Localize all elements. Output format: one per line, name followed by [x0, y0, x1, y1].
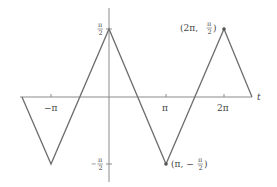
svg-text:2: 2 — [99, 29, 103, 37]
svg-text:π: π — [207, 20, 212, 28]
annotation-pi-neg-pi-over-2: (π, − π 2 ) — [171, 156, 208, 172]
label-t-axis: t — [257, 92, 261, 102]
svg-text:2: 2 — [208, 28, 212, 36]
svg-text:π: π — [98, 21, 103, 29]
label-pi: π — [162, 103, 168, 113]
svg-text:): ) — [204, 159, 208, 169]
svg-text:π: π — [198, 156, 203, 164]
svg-text:): ) — [213, 23, 217, 33]
label-neg-pi: −π — [44, 103, 58, 113]
svg-text:(π, −: (π, − — [171, 159, 194, 169]
label-pi-over-2: π 2 — [98, 21, 104, 37]
point-pi-neg-pi-over-2 — [164, 162, 168, 166]
svg-text:π: π — [98, 156, 103, 164]
svg-text:(2π,: (2π, — [180, 23, 198, 33]
label-2pi: 2π — [217, 103, 229, 113]
label-neg-pi-over-2: − π 2 — [91, 156, 103, 172]
point-2pi-pi-over-2 — [222, 27, 226, 31]
svg-text:2: 2 — [199, 164, 203, 172]
svg-text:2: 2 — [99, 164, 103, 172]
svg-text:−: − — [91, 160, 96, 168]
triangle-wave-chart: −π π 2π t π 2 − π 2 (2π, π 2 ) (π, − π 2… — [0, 0, 277, 187]
annotation-2pi-pi-over-2: (2π, π 2 ) — [180, 20, 217, 36]
